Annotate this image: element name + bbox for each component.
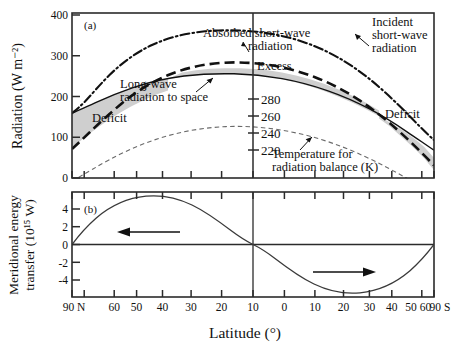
- deficit-label-north: Deficit: [92, 111, 127, 125]
- xtick-label-60N: 60: [108, 301, 120, 313]
- xtick-label-20N: 20: [216, 301, 228, 313]
- xtick-label-40S: 40: [386, 301, 398, 313]
- xtick-label-90S: 90 S: [430, 301, 451, 313]
- xtick-label-30N: 30: [185, 301, 197, 313]
- longwave-label-line1: Long-wave: [120, 77, 177, 91]
- panel-b-tag: (b): [84, 203, 97, 216]
- temp-tick-260: 260: [261, 109, 281, 124]
- xtick-label-90N: 90 N: [63, 301, 86, 313]
- temperature-label-line1: Temperature for: [272, 147, 354, 161]
- ytick-label-a-0: 0: [62, 172, 68, 184]
- panel-a-tag: (a): [84, 19, 97, 32]
- longwave-label-line2: radiation to space: [120, 90, 209, 104]
- temp-tick-240: 240: [261, 126, 281, 141]
- incident-label-line1: Incident: [372, 15, 413, 29]
- xtick-label-10S: 10: [309, 301, 321, 313]
- ytick-label-b-neg2: -2: [58, 257, 68, 269]
- absorbed-shortwave-label-line1: Absorbed short-wave: [203, 26, 311, 40]
- figure-root: 0 100 200 300 400: [0, 0, 451, 354]
- ytick-label-b-2: 2: [62, 221, 68, 233]
- xtick-label-20S: 20: [338, 301, 350, 313]
- temp-tick-280: 280: [261, 92, 281, 107]
- excess-label: Excess: [257, 59, 292, 73]
- incident-label-line2: short-wave: [372, 28, 428, 42]
- absorbed-shortwave-label-line2: radiation: [248, 39, 293, 53]
- xaxis-label: Latitude (°): [209, 324, 281, 342]
- ytick-label-a-100: 100: [51, 131, 69, 143]
- ytick-label-b-neg4: -4: [58, 274, 68, 286]
- xtick-label-0: 0: [282, 301, 288, 313]
- panel-a-ylabel: Radiation (W m⁻²): [10, 43, 26, 149]
- xtick-label-10N: 10: [247, 301, 259, 313]
- ytick-label-a-200: 200: [51, 91, 69, 103]
- figure-svg: 0 100 200 300 400: [0, 0, 451, 354]
- incident-label-line3: radiation: [372, 41, 417, 55]
- ytick-label-b-0: 0: [62, 239, 68, 251]
- xtick-label-30S: 30: [364, 301, 376, 313]
- ytick-label-a-300: 300: [51, 50, 69, 62]
- xtick-label-50S: 50: [405, 301, 417, 313]
- deficit-label-south: Deficit: [385, 107, 420, 121]
- ytick-label-a-400: 400: [51, 9, 69, 21]
- panel-b-ylabel-line1: Meridional energy: [6, 195, 21, 295]
- xtick-label-40N: 40: [157, 301, 169, 313]
- temperature-label-line2: radiation balance (K): [272, 160, 378, 174]
- xtick-label-50N: 50: [131, 301, 143, 313]
- panel-b-ylabel-line2: transfer (10¹⁵ W): [22, 199, 37, 291]
- ytick-label-b-4: 4: [62, 203, 68, 215]
